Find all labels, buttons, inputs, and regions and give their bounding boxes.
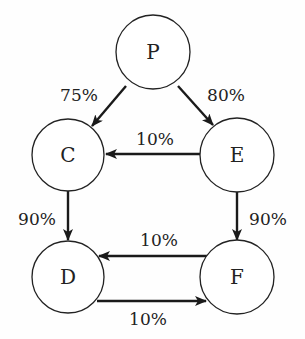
node-f: F	[200, 240, 274, 314]
node-f-label: F	[230, 265, 244, 289]
node-c: C	[32, 119, 104, 191]
node-p: P	[116, 15, 190, 89]
label-p-to-e: 80%	[207, 85, 245, 105]
label-e-to-c: 10%	[136, 129, 174, 149]
node-p-label: P	[146, 40, 159, 64]
flow-diagram: 75% 80% 10% 90% 90% 10% 10% P C E D F	[0, 0, 305, 339]
node-c-label: C	[60, 143, 75, 167]
label-e-to-f: 90%	[249, 209, 287, 229]
label-p-to-c: 75%	[60, 85, 98, 105]
label-c-to-d: 90%	[18, 209, 56, 229]
node-e: E	[200, 118, 274, 192]
node-d: D	[32, 241, 104, 313]
label-f-to-d: 10%	[140, 230, 178, 250]
label-d-to-f: 10%	[129, 309, 167, 329]
node-d-label: D	[60, 265, 76, 289]
node-e-label: E	[230, 143, 245, 167]
